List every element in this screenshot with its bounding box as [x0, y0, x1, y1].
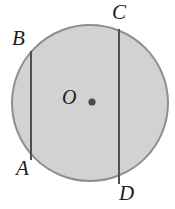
label-point-d: D [119, 183, 134, 204]
label-center-o: O [62, 87, 76, 107]
geometry-diagram: B C A D O [0, 0, 175, 209]
label-point-b: B [12, 28, 25, 49]
center-point-dot [88, 98, 95, 105]
label-point-c: C [112, 2, 126, 23]
label-point-a: A [16, 158, 29, 179]
